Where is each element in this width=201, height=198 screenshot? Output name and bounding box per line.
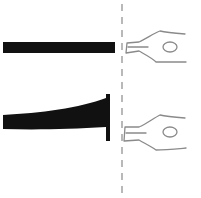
- pen-stroke-illustration: [0, 0, 201, 198]
- pen-nib-icon-bottom: [124, 115, 186, 150]
- uniform-ink-stroke: [3, 42, 115, 53]
- pen-nib-icon-top: [126, 31, 186, 62]
- flared-ink-stroke: [3, 94, 110, 141]
